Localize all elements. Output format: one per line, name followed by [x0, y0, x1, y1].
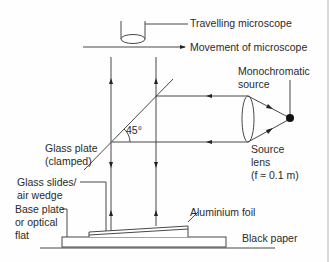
label-base-1: Base plate	[15, 203, 65, 215]
label-source-1: Monochromatic	[238, 65, 310, 77]
label-lens-3: (f ≈ 0.1 m)	[251, 169, 299, 181]
label-glass-plate-2: (clamped)	[45, 155, 92, 167]
air-wedge-diagram: Travelling microscope Movement of micros…	[0, 0, 329, 262]
label-glass-plate-1: Glass plate	[45, 142, 98, 154]
label-slides-2: air wedge	[17, 189, 63, 201]
label-slides-1: Glass slides/	[17, 176, 77, 188]
label-travelling-microscope: Travelling microscope	[190, 17, 292, 29]
label-base-3: flat	[15, 229, 29, 241]
label-angle: 45°	[126, 124, 142, 136]
glass-slides	[89, 226, 188, 237]
label-foil: Aluminium foil	[190, 206, 255, 218]
label-lens-2: lens	[251, 156, 270, 168]
label-source-2: source	[238, 78, 270, 90]
label-lens-1: Source	[251, 143, 284, 155]
microscope-icon	[121, 21, 188, 44]
base-plate	[62, 237, 226, 247]
source-lens	[242, 96, 254, 142]
light-source-icon	[286, 114, 294, 122]
label-movement: Movement of microscope	[190, 41, 307, 53]
label-base-2: or optical	[15, 216, 58, 228]
label-paper: Black paper	[242, 232, 297, 244]
